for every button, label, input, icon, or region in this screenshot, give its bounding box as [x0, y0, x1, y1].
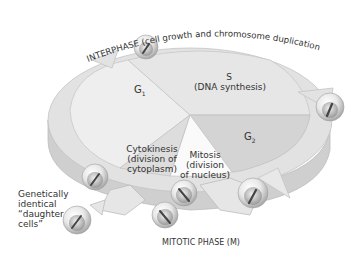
g1-subscript: 1 — [142, 90, 146, 97]
g1-label: G1 — [134, 85, 146, 99]
daughter-cells-label: Genetically identical “daughter cells” — [18, 189, 69, 229]
cell-cytokinesis-icon — [82, 164, 108, 190]
cytokinesis-line2: (division of — [124, 154, 180, 164]
mitosis-label: Mitosis (division of nucleus) — [180, 150, 230, 180]
g2-letter: G — [244, 131, 252, 142]
mitosis-line3: of nucleus) — [180, 170, 230, 180]
mitotic-phase-text: MITOTIC PHASE (M) — [162, 238, 240, 247]
g1-letter: G — [134, 84, 142, 95]
g2-label: G2 — [244, 132, 256, 146]
cell-g2-end-icon — [238, 178, 268, 208]
cell-mitosis-b-icon — [152, 202, 178, 228]
mitotic-phase-label: MITOTIC PHASE (M) — [162, 238, 240, 248]
daughter-line2: identical — [18, 199, 69, 209]
cytokinesis-label: Cytokinesis (division of cytoplasm) — [124, 144, 180, 174]
daughter-arrow-head-icon — [90, 200, 105, 215]
s-label: S (DNA synthesis) — [194, 72, 264, 92]
cytokinesis-line3: cytoplasm) — [124, 164, 180, 174]
daughter-line3: “daughter — [18, 209, 69, 219]
g2-subscript: 2 — [252, 137, 256, 144]
cell-cycle-diagram: INTERPHASE (cell growth and chromosome d… — [0, 0, 357, 257]
daughter-line4: cells” — [18, 219, 69, 229]
cell-s-end-icon — [316, 93, 344, 121]
s-letter: S — [194, 72, 264, 82]
s-description: (DNA synthesis) — [194, 82, 264, 92]
cytokinesis-title: Cytokinesis — [124, 144, 180, 154]
mitosis-line2: (division — [180, 160, 230, 170]
daughter-line1: Genetically — [18, 189, 69, 199]
cell-mitosis-a-icon — [171, 180, 197, 206]
mitosis-title: Mitosis — [180, 150, 230, 160]
